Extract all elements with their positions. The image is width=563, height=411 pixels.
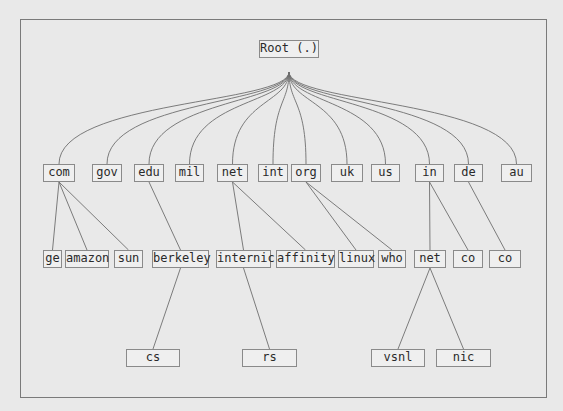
tree-edge bbox=[153, 268, 181, 349]
tree-edge bbox=[469, 182, 506, 250]
node-berkeley: berkeley bbox=[152, 250, 209, 268]
node-int: int bbox=[258, 164, 288, 182]
tree-edge bbox=[430, 268, 464, 349]
tree-edge bbox=[430, 182, 431, 250]
node-edu: edu bbox=[134, 164, 164, 182]
tree-edge bbox=[430, 182, 469, 250]
node-au: au bbox=[501, 164, 532, 182]
tree-edge bbox=[53, 182, 60, 250]
node-org: org bbox=[291, 164, 321, 182]
root-node: Root (.) bbox=[259, 40, 319, 58]
tree-edge bbox=[233, 182, 244, 250]
tree-edge bbox=[59, 72, 289, 164]
node-vsnl: vsnl bbox=[371, 349, 425, 367]
node-ge: ge bbox=[43, 250, 62, 268]
tree-edge bbox=[289, 72, 347, 164]
node-gov: gov bbox=[92, 164, 122, 182]
tree-edge bbox=[149, 182, 181, 250]
node-sun: sun bbox=[114, 250, 143, 268]
tree-edge bbox=[59, 182, 87, 250]
node-uk: uk bbox=[331, 164, 363, 182]
tree-edge bbox=[398, 268, 430, 349]
tree-edge bbox=[244, 268, 270, 349]
node-cs: cs bbox=[126, 349, 180, 367]
node-rs: rs bbox=[242, 349, 297, 367]
node-net: net bbox=[217, 164, 248, 182]
tree-edge bbox=[59, 182, 129, 250]
tree-edge bbox=[289, 72, 517, 164]
node-who: who bbox=[378, 250, 406, 268]
node-us: us bbox=[371, 164, 400, 182]
node-com: com bbox=[43, 164, 75, 182]
node-linux: linux bbox=[338, 250, 374, 268]
tree-edge bbox=[149, 72, 289, 164]
node-nic: nic bbox=[436, 349, 491, 367]
tree-edge bbox=[289, 72, 469, 164]
node-de-co: co bbox=[489, 250, 521, 268]
node-internic: internic bbox=[216, 250, 271, 268]
tree-edge bbox=[107, 72, 289, 164]
node-in: in bbox=[415, 164, 444, 182]
node-in-net: net bbox=[414, 250, 446, 268]
node-amazon: amazon bbox=[65, 250, 109, 268]
tree-edge bbox=[233, 182, 306, 250]
node-de: de bbox=[454, 164, 483, 182]
node-in-co: co bbox=[453, 250, 483, 268]
node-affinity: affinity bbox=[276, 250, 335, 268]
node-mil: mil bbox=[175, 164, 204, 182]
